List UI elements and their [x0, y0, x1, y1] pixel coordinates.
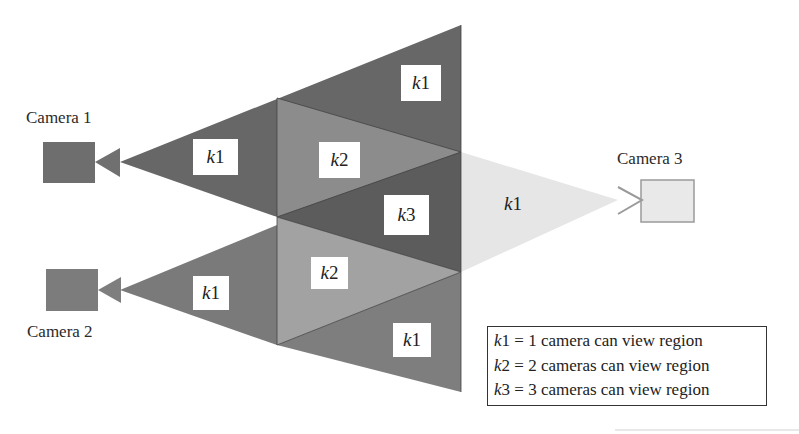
- camera2-body: [46, 269, 98, 311]
- camera3-view-cone: [461, 152, 618, 272]
- camera2-lens-icon: [98, 277, 121, 303]
- legend-row-k1: k1 = 1 camera can view region: [494, 329, 760, 354]
- region-label-k2-top: k2: [319, 142, 360, 178]
- region-label-k1-cam1: k1: [193, 139, 238, 175]
- camera1-body: [43, 142, 95, 183]
- camera3-body: [641, 180, 694, 222]
- camera2-label: Camera 2: [27, 322, 93, 342]
- camera3-label: Camera 3: [617, 149, 683, 169]
- region-label-k2-bottom: k2: [311, 257, 348, 289]
- region-label-k1-bottom: k1: [393, 323, 431, 357]
- legend-row-k3: k3 = 3 cameras can view region: [494, 378, 760, 403]
- camera3-lens-icon: [618, 187, 642, 214]
- region-label-k1-cam2: k1: [193, 276, 229, 310]
- camera1-lens-icon: [95, 148, 120, 177]
- legend: k1 = 1 camera can view region k2 = 2 cam…: [487, 326, 767, 406]
- page-rule: [615, 429, 799, 431]
- region-label-k3: k3: [384, 195, 429, 235]
- region-label-k1-top: k1: [401, 65, 441, 101]
- region-label-k1-cam3: k1: [494, 188, 532, 220]
- camera1-label: Camera 1: [26, 108, 92, 128]
- legend-row-k2: k2 = 2 cameras can view region: [494, 354, 760, 379]
